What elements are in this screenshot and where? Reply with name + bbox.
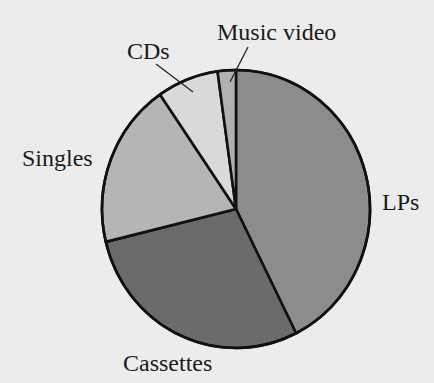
label-music-video: Music video	[217, 19, 336, 45]
label-lps: LPs	[382, 189, 419, 215]
pie-slices	[102, 70, 370, 348]
label-cassettes: Cassettes	[123, 350, 212, 376]
pie-chart: LPsCassettesSinglesCDsMusic video	[0, 0, 434, 383]
label-singles: Singles	[22, 145, 93, 171]
label-cds: CDs	[127, 38, 170, 64]
